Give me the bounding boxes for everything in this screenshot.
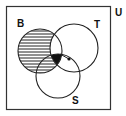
- marked-point-dot: [67, 57, 70, 60]
- venn-diagram: B T S U: [0, 0, 126, 116]
- label-b: B: [17, 18, 24, 29]
- label-s: S: [72, 95, 79, 106]
- label-universe: U: [115, 7, 122, 18]
- label-t: T: [94, 19, 100, 30]
